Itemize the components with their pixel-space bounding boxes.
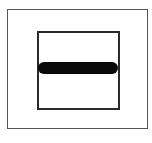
minus-icon: [38, 62, 118, 74]
diagram-canvas: [0, 0, 152, 143]
